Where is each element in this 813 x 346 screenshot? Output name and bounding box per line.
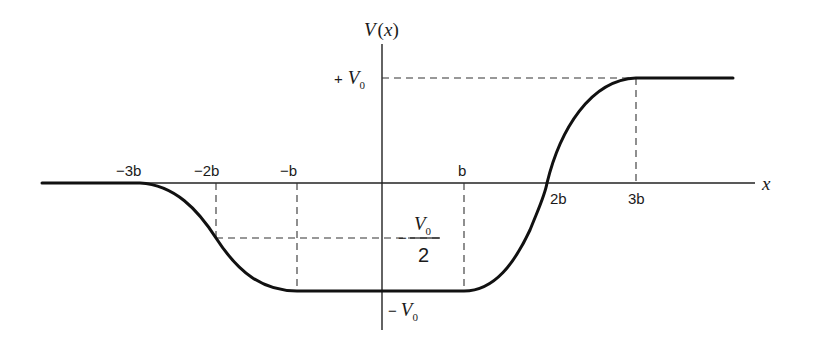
tick-label-negb: −b — [280, 162, 297, 179]
y-axis-label: V(x) — [364, 19, 399, 41]
half-v0-sign: − — [398, 229, 407, 246]
minus-v0-label: −V0 — [388, 299, 418, 323]
tick-label-neg2b: −2b — [194, 162, 219, 179]
potential-chart: V(x) x −3b −2b −b b 2b 3b +V0 −V0 − V0 2 — [0, 0, 813, 346]
half-v0-denominator: 2 — [418, 244, 429, 266]
potential-curve — [42, 78, 733, 291]
plus-v0-label: +V0 — [334, 67, 365, 91]
tick-label-b: b — [458, 162, 466, 179]
x-axis-label: x — [761, 173, 771, 194]
half-v0-numerator: V0 — [414, 213, 432, 237]
tick-label-2b: 2b — [550, 190, 567, 207]
half-v0-label: − V0 2 — [398, 213, 440, 266]
tick-label-neg3b: −3b — [116, 162, 141, 179]
tick-label-3b: 3b — [628, 190, 645, 207]
